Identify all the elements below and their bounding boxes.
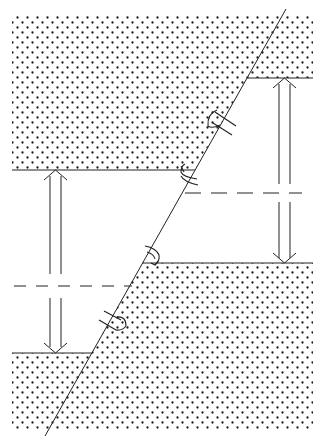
upper-left-block — [12, 14, 283, 170]
left-displacement-arrow — [44, 170, 67, 353]
right-displacement-arrow — [273, 78, 296, 263]
fault-diagram: Cross-section of an inclined fault with … — [0, 0, 329, 444]
lower-right-block — [48, 263, 313, 430]
